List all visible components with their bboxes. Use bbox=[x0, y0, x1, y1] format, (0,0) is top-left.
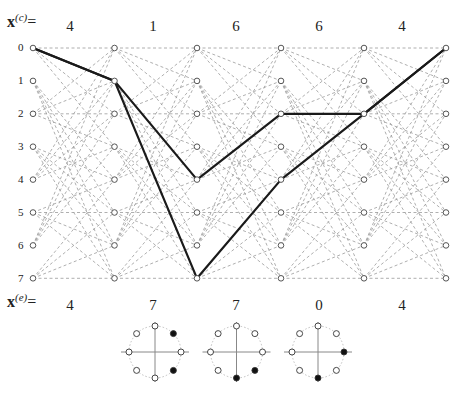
trellis-transition-edge bbox=[364, 81, 446, 114]
top-symbol-1: 4 bbox=[60, 19, 80, 34]
trellis-state-node bbox=[361, 177, 367, 183]
trellis-state-node bbox=[112, 243, 118, 249]
state-label-4: 4 bbox=[18, 174, 30, 185]
trellis-state-node bbox=[112, 45, 118, 51]
top-symbol-3: 6 bbox=[226, 19, 246, 34]
constellation-point bbox=[252, 331, 258, 337]
top-sequence-label-sup: (c) bbox=[15, 11, 27, 23]
trellis-state-node bbox=[112, 144, 118, 150]
bottom-symbol-1: 4 bbox=[60, 298, 80, 313]
trellis-state-node bbox=[361, 45, 367, 51]
trellis-transition-edge bbox=[115, 48, 198, 81]
constellation-point-selected bbox=[252, 367, 258, 373]
trellis-state-node bbox=[443, 111, 449, 117]
trellis-state-node bbox=[278, 177, 284, 183]
constellation-point bbox=[215, 331, 221, 337]
trellis-state-node bbox=[443, 276, 449, 282]
trellis-state-node bbox=[361, 144, 367, 150]
constellation-point bbox=[333, 367, 339, 373]
constellation-point bbox=[134, 331, 140, 337]
state-label-6: 6 bbox=[18, 240, 30, 251]
trellis-transition-edge bbox=[115, 48, 198, 245]
trellis-transition-edge bbox=[33, 180, 115, 213]
constellation-2 bbox=[203, 322, 271, 382]
trellis-state-node bbox=[194, 144, 200, 150]
trellis-transition-edge bbox=[115, 180, 198, 213]
constellation-point-selected bbox=[234, 375, 240, 381]
bottom-sequence-label-eq: = bbox=[27, 293, 36, 310]
trellis-state-node bbox=[361, 78, 367, 84]
state-label-5: 5 bbox=[18, 207, 30, 218]
state-label-2: 2 bbox=[18, 108, 30, 119]
trellis-state-node bbox=[443, 177, 449, 183]
trellis-transition-edge bbox=[364, 114, 446, 147]
constellation-point bbox=[297, 367, 303, 373]
trellis-transition-edge bbox=[33, 114, 115, 147]
trellis-state-node bbox=[112, 210, 118, 216]
trellis-dashed-edges bbox=[33, 48, 446, 278]
trellis-state-node bbox=[194, 78, 200, 84]
top-symbol-4: 6 bbox=[309, 19, 329, 34]
top-symbol-5: 4 bbox=[392, 19, 412, 34]
constellation-point bbox=[152, 375, 158, 381]
bottom-sequence-label-sup: (e) bbox=[15, 291, 27, 303]
bottom-symbol-3: 7 bbox=[226, 298, 246, 313]
trellis-state-node bbox=[278, 144, 284, 150]
constellation-point-selected bbox=[170, 331, 176, 337]
constellation-point bbox=[234, 323, 240, 329]
constellation-point bbox=[289, 349, 295, 355]
trellis-state-node bbox=[278, 111, 284, 117]
trellis-state-node bbox=[194, 243, 200, 249]
constellation-3 bbox=[284, 322, 352, 382]
constellation-point bbox=[315, 323, 321, 329]
top-sequence-label-eq: = bbox=[27, 13, 36, 30]
trellis-state-node bbox=[278, 45, 284, 51]
trellis-state-node bbox=[30, 276, 36, 282]
trellis-transition-edge bbox=[197, 114, 281, 246]
trellis-transition-edge bbox=[33, 48, 115, 147]
trellis-transition-edge bbox=[364, 245, 446, 278]
state-label-0: 0 bbox=[18, 42, 30, 53]
constellation-diagrams bbox=[121, 322, 352, 382]
constellation-1 bbox=[121, 322, 189, 382]
bottom-sequence-label-main: x bbox=[7, 293, 15, 310]
constellation-point bbox=[260, 349, 266, 355]
top-symbol-2: 1 bbox=[143, 19, 163, 34]
trellis-transition-edge bbox=[364, 48, 446, 81]
trellis-transition-edge bbox=[281, 213, 364, 246]
trellis-transition-edge bbox=[33, 48, 115, 245]
trellis-state-node bbox=[278, 78, 284, 84]
trellis-state-node bbox=[194, 276, 200, 282]
trellis-state-node bbox=[443, 45, 449, 51]
constellation-point-selected bbox=[170, 367, 176, 373]
trellis-transition-edge bbox=[281, 81, 364, 114]
top-sequence-label: x(c)= bbox=[7, 12, 36, 30]
trellis-state-node bbox=[443, 243, 449, 249]
trellis-state-node bbox=[194, 111, 200, 117]
state-label-7: 7 bbox=[18, 273, 30, 284]
constellation-point-selected bbox=[315, 375, 321, 381]
constellation-point bbox=[134, 367, 140, 373]
trellis-transition-edge bbox=[115, 213, 198, 246]
trellis-state-node bbox=[112, 177, 118, 183]
trellis-state-node bbox=[112, 276, 118, 282]
trellis-state-node bbox=[112, 78, 118, 84]
trellis-state-node bbox=[278, 276, 284, 282]
trellis-state-node bbox=[443, 210, 449, 216]
trellis-state-node bbox=[361, 111, 367, 117]
trellis-state-node bbox=[278, 243, 284, 249]
trellis-state-node bbox=[443, 144, 449, 150]
constellation-point bbox=[215, 367, 221, 373]
top-sequence-label-main: x bbox=[7, 13, 15, 30]
trellis-state-node bbox=[30, 144, 36, 150]
trellis-state-node bbox=[361, 243, 367, 249]
trellis-state-node bbox=[278, 210, 284, 216]
bottom-symbol-2: 7 bbox=[143, 298, 163, 313]
constellation-point-selected bbox=[341, 349, 347, 355]
constellation-point bbox=[333, 331, 339, 337]
trellis-transition-edge bbox=[281, 180, 364, 213]
trellis-transition-edge bbox=[364, 213, 446, 246]
constellation-point bbox=[152, 323, 158, 329]
trellis-transition-edge bbox=[364, 114, 446, 246]
bottom-symbol-5: 4 bbox=[392, 298, 412, 313]
